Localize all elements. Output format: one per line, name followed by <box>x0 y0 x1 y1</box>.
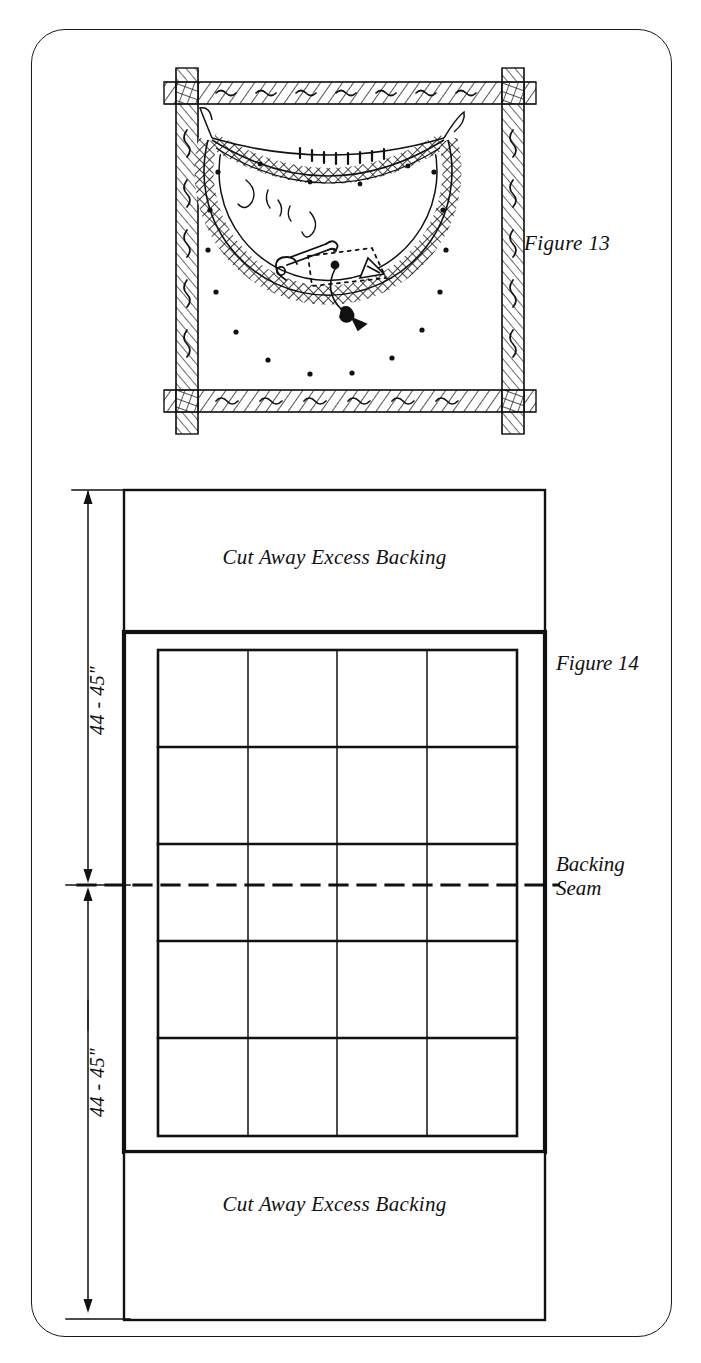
cut-away-top-label: Cut Away Excess Backing <box>124 545 545 570</box>
cut-away-bottom-box <box>124 1152 545 1320</box>
figure-14-label: Figure 14 <box>556 651 639 676</box>
backing-seam-label-line2: Seam <box>556 876 625 900</box>
quilt-grid <box>158 650 517 1136</box>
triangle-tool <box>360 258 384 278</box>
backing-seam-label-line1: Backing <box>556 852 625 876</box>
dimension-label-bottom: 44 - 45" <box>86 1048 109 1117</box>
figure-13-illustration <box>160 60 540 440</box>
page-canvas: Figure 13 <box>0 0 701 1363</box>
dimension-arrows <box>66 490 130 1319</box>
backing-seam-label: Backing Seam <box>556 852 625 901</box>
ruler-marks <box>300 148 384 164</box>
thimble-icon <box>340 307 366 330</box>
bib-shape <box>200 108 464 377</box>
figure-13-label: Figure 13 <box>524 231 610 256</box>
dimension-label-top: 44 - 45" <box>86 666 109 735</box>
cut-away-bottom-label: Cut Away Excess Backing <box>124 1192 545 1217</box>
